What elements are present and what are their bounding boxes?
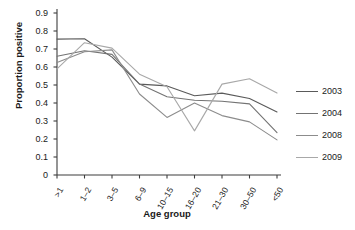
series-line-2008 xyxy=(57,50,277,140)
legend-line-icon xyxy=(296,91,318,92)
legend-line-icon xyxy=(296,157,318,158)
legend-label: 2008 xyxy=(322,130,342,140)
legend-line-icon xyxy=(296,135,318,136)
x-axis-label: Age group xyxy=(57,208,277,219)
legend-line-icon xyxy=(296,113,318,114)
chart-legend: 2003200420082009 xyxy=(296,80,355,168)
legend-item-2008[interactable]: 2008 xyxy=(296,124,355,146)
legend-item-2009[interactable]: 2009 xyxy=(296,146,355,168)
legend-label: 2004 xyxy=(322,108,342,118)
legend-label: 2003 xyxy=(322,86,342,96)
legend-item-2003[interactable]: 2003 xyxy=(296,80,355,102)
legend-item-2004[interactable]: 2004 xyxy=(296,102,355,124)
series-line-2003 xyxy=(57,39,277,112)
chart-figure: Proportion positive 00.10.20.30.40.50.60… xyxy=(0,0,355,230)
legend-label: 2009 xyxy=(322,152,342,162)
